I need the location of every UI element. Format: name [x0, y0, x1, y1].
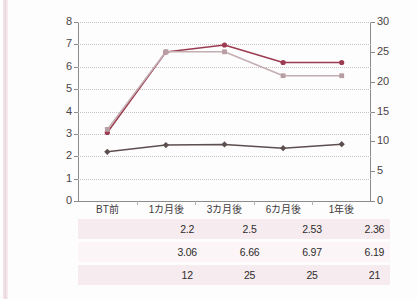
cell: 2.36 — [343, 219, 405, 239]
cell: 2.5 — [218, 219, 280, 239]
table-row-values-fev1: 2.2 2.5 2.53 2.36 2.54 — [156, 219, 417, 239]
data-table: 2.2 2.5 2.53 2.36 2.54 FEV1 3.06 6.66 6.… — [0, 219, 417, 289]
table-row: 3.06 6.66 6.97 6.19 6.19 — [78, 242, 390, 262]
data-point-fev1-2 — [221, 141, 227, 147]
table-row: 12 25 25 21 21 — [78, 265, 390, 285]
series-line-act — [107, 52, 341, 130]
data-point-aqlq-2 — [222, 42, 227, 47]
cell: 2.2 — [156, 219, 218, 239]
cell: 25 — [281, 265, 343, 285]
cell: 6.19 — [406, 242, 417, 262]
series-layer — [0, 0, 417, 215]
cell: 21 — [406, 265, 417, 285]
table-row: 2.2 2.5 2.53 2.36 2.54 — [78, 219, 390, 239]
data-point-act-0 — [105, 127, 110, 132]
cell: 6.66 — [218, 242, 280, 262]
cell: 3.06 — [156, 242, 218, 262]
cell: 25 — [218, 265, 280, 285]
cell: 6.97 — [281, 242, 343, 262]
data-point-fev1-0 — [104, 149, 110, 155]
series-line-aqlq — [107, 45, 341, 133]
chart-screenshot: 8 7 6 5 4 3 2 1 0 30 25 20 15 10 5 0 BT前… — [0, 0, 417, 299]
data-point-act-3 — [281, 73, 286, 78]
data-point-act-2 — [222, 49, 227, 54]
data-point-fev1-1 — [163, 142, 169, 148]
line-chart: 8 7 6 5 4 3 2 1 0 30 25 20 15 10 5 0 BT前… — [0, 0, 417, 215]
cell: 2.53 — [281, 219, 343, 239]
cell: 21 — [343, 265, 405, 285]
table-row-values-act: 12 25 25 21 21 — [156, 265, 417, 285]
data-point-aqlq-4 — [339, 60, 344, 65]
data-point-aqlq-3 — [281, 60, 286, 65]
cell: 6.19 — [343, 242, 405, 262]
table-row-values-aqlq: 3.06 6.66 6.97 6.19 6.19 — [156, 242, 417, 262]
cell: 2.54 — [406, 219, 417, 239]
data-point-fev1-4 — [339, 141, 345, 147]
cell: 12 — [156, 265, 218, 285]
data-point-act-4 — [339, 73, 344, 78]
data-point-fev1-3 — [280, 145, 286, 151]
data-point-act-1 — [164, 49, 169, 54]
